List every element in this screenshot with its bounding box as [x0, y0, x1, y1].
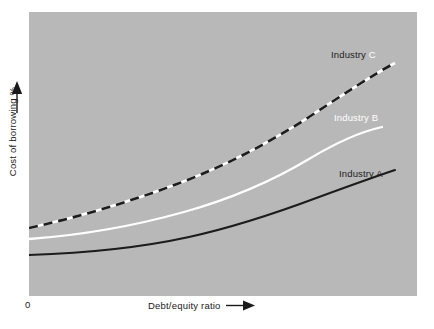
series-line-industry-a: [29, 170, 395, 255]
y-axis: Cost of borrowing %: [0, 80, 29, 270]
y-axis-title: Cost of borrowing %: [7, 57, 18, 207]
series-label-industry-a: Industry A: [339, 169, 383, 179]
series-label-industry-c-tail: C: [369, 49, 376, 60]
series-label-industry-b: Industry B: [334, 113, 378, 123]
series-line-industry-b: [29, 127, 382, 239]
arrow-right-icon: [226, 300, 256, 311]
chart-figure: Industry C Industry B Industry A Cost of…: [0, 0, 434, 329]
plot-area: Industry C Industry B Industry A: [29, 12, 417, 296]
series-label-industry-c-lead: Industry: [331, 49, 366, 60]
series-label-industry-c: Industry C: [331, 50, 376, 60]
x-axis: Debt/equity ratio: [148, 300, 256, 311]
origin-label: 0: [25, 300, 30, 310]
x-axis-title: Debt/equity ratio: [148, 300, 221, 311]
